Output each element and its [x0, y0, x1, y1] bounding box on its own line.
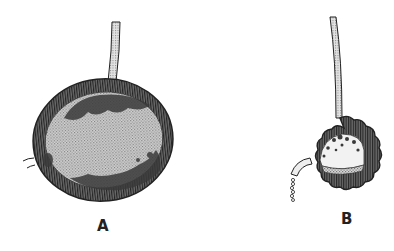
stalk-b	[330, 17, 342, 118]
panel-label-a: A	[97, 219, 109, 234]
spout-b	[291, 158, 312, 176]
panel-label-b: B	[341, 212, 352, 227]
panel-a	[23, 22, 179, 208]
stalk-a	[108, 22, 120, 82]
panel-b	[290, 17, 381, 202]
illustration	[0, 0, 394, 251]
droplets-b	[290, 178, 294, 201]
tendril-a	[23, 158, 35, 168]
